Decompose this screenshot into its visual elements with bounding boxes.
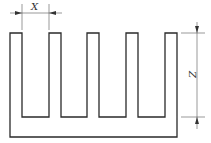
- label-z: Z: [187, 70, 198, 79]
- arrow-up-icon: [195, 117, 199, 124]
- heatsink-diagram: X Z: [0, 0, 211, 143]
- heatsink-profile: [10, 33, 177, 137]
- arrow-left-icon: [49, 11, 56, 15]
- arrow-right-icon: [15, 11, 22, 15]
- label-x: X: [30, 1, 39, 12]
- dimension-z: Z: [181, 22, 205, 129]
- arrow-down-icon: [195, 26, 199, 33]
- dimension-x: X: [10, 1, 62, 30]
